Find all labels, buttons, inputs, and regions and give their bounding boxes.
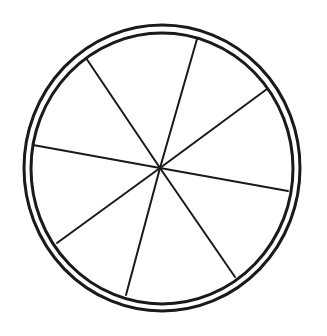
spoke-6 bbox=[126, 168, 160, 295]
spoke-3 bbox=[160, 89, 267, 168]
spoke-1 bbox=[86, 58, 160, 168]
spokes-group bbox=[33, 39, 288, 295]
diagram-canvas bbox=[0, 0, 327, 336]
spoke-2 bbox=[160, 39, 197, 168]
spoke-7 bbox=[57, 168, 160, 243]
spoke-4 bbox=[160, 168, 288, 191]
spoke-5 bbox=[160, 168, 235, 277]
spoke-8 bbox=[33, 145, 160, 168]
segmented-circle-diagram bbox=[0, 0, 327, 336]
